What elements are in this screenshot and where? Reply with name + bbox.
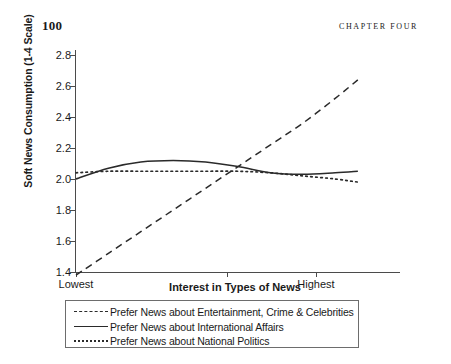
page-canvas: 100 CHAPTER FOUR Soft News Consumption (… (0, 0, 451, 364)
legend-key-dotted-icon (72, 335, 110, 347)
legend-key-dashed-icon (72, 306, 110, 318)
chart-legend: Prefer News about Entertainment, Crime &… (65, 300, 359, 348)
figure-line-chart: Soft News Consumption (1-4 Scale) 2.8 2.… (0, 0, 451, 364)
legend-item-international: Prefer News about International Affairs (72, 320, 352, 335)
legend-label: Prefer News about National Politics (110, 335, 269, 347)
legend-key-solid-icon (72, 321, 110, 333)
legend-item-entertainment: Prefer News about Entertainment, Crime &… (72, 305, 352, 320)
legend-label: Prefer News about International Affairs (110, 321, 284, 333)
legend-item-national-politics: Prefer News about National Politics (72, 334, 352, 349)
legend-label: Prefer News about Entertainment, Crime &… (110, 306, 354, 318)
series-line-international (76, 160, 358, 179)
